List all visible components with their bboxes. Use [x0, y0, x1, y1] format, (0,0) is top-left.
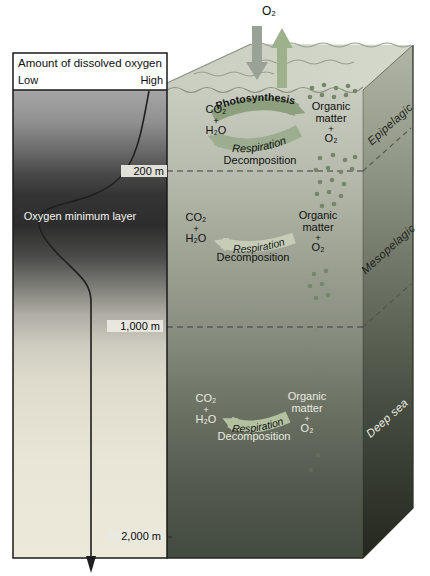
depth-marker-1000m: 1,000 m — [107, 320, 163, 332]
oxygen-minimum-layer-label: Oxygen minimum layer — [16, 211, 144, 223]
ocean-oxygen-diagram: Photosynthesis Respiration Respiration R… — [0, 0, 430, 576]
mesopelagic-reactants: Organic matter + O₂ — [294, 210, 342, 254]
panel-title: Amount of dissolved oxygen — [16, 57, 164, 69]
depth-marker-2000m: 2,000 m — [108, 530, 164, 542]
surface-o2-label: O₂ — [254, 6, 284, 18]
epipelagic-reactants: Organic matter + O₂ — [307, 101, 355, 145]
scale-high-label: High — [123, 75, 163, 87]
deepsea-decomposition-label: Decomposition — [204, 431, 304, 443]
diagram-artwork: Photosynthesis Respiration Respiration R… — [0, 0, 430, 576]
deepsea-reactants: Organic matter + O₂ — [283, 391, 331, 435]
epipelagic-products: CO₂ + H₂O — [194, 104, 238, 136]
mesopelagic-decomposition-label: Decomposition — [203, 252, 303, 264]
mesopelagic-products: CO₂ + H₂O — [174, 212, 218, 244]
scale-low-label: Low — [18, 75, 58, 87]
deepsea-products: CO₂ + H₂O — [184, 393, 228, 425]
depth-marker-200m: 200 m — [121, 165, 167, 177]
epipelagic-decomposition-label: Decomposition — [210, 155, 310, 167]
